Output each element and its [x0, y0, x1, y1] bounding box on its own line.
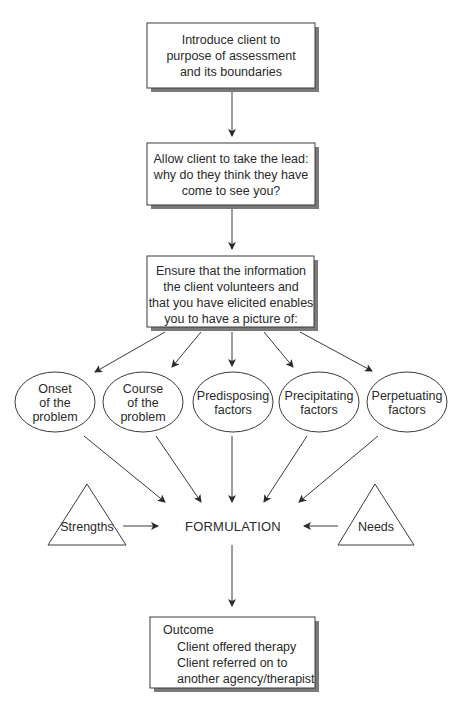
course-line-2: of the	[127, 396, 158, 410]
allow-lead-line-3: come to see you?	[182, 184, 281, 198]
assessment-flowchart: Introduce client to purpose of assessmen…	[0, 0, 465, 708]
arrow-precipitating-to-formulation	[264, 436, 307, 502]
allow-lead-line-2: why do they think they have	[153, 168, 308, 182]
course-line-3: problem	[120, 410, 165, 424]
allow-lead-box: Allow client to take the lead: why do th…	[147, 143, 319, 209]
needs-label: Needs	[358, 520, 394, 534]
introduce-line-1: Introduce client to	[182, 33, 281, 47]
factor-onset: Onset of the problem	[15, 372, 95, 432]
ensure-line-1: Ensure that the information	[156, 264, 306, 278]
arrow-onset-to-formulation	[84, 436, 165, 502]
precipitating-line-2: factors	[300, 403, 338, 417]
arrow-ensure-to-onset	[95, 332, 165, 372]
factor-predisposing: Predisposing factors	[193, 372, 273, 432]
predisposing-line-1: Predisposing	[197, 389, 269, 403]
strengths-label: Strengths	[60, 520, 114, 534]
ensure-line-4: you to have a picture of:	[164, 312, 297, 326]
strengths-triangle: Strengths	[48, 484, 126, 545]
precipitating-line-1: Precipitating	[285, 389, 354, 403]
onset-line-3: problem	[32, 410, 77, 424]
outcome-line-2: Client referred on to	[177, 656, 288, 670]
introduce-line-3: and its boundaries	[180, 65, 282, 79]
introduce-line-2: purpose of assessment	[166, 49, 296, 63]
introduce-client-box: Introduce client to purpose of assessmen…	[147, 23, 319, 92]
factor-course: Course of the problem	[103, 372, 183, 432]
factor-precipitating: Precipitating factors	[279, 372, 359, 432]
arrow-ensure-to-course	[172, 332, 201, 367]
arrow-ensure-to-precipitating	[264, 332, 293, 367]
onset-line-2: of the	[39, 396, 70, 410]
arrow-course-to-formulation	[156, 436, 201, 502]
arrow-perpetuating-to-formulation	[299, 436, 378, 502]
ensure-information-box: Ensure that the information the client v…	[147, 256, 318, 331]
ensure-line-2: the client volunteers and	[163, 280, 299, 294]
formulation-label: FORMULATION	[185, 519, 281, 534]
outcome-box: Outcome Client offered therapy Client re…	[150, 617, 319, 692]
arrow-ensure-to-perpetuating	[300, 332, 372, 371]
course-line-1: Course	[123, 382, 163, 396]
ensure-line-3: that you have elicited enables	[149, 296, 314, 310]
perpetuating-line-1: Perpetuating	[372, 389, 443, 403]
perpetuating-line-2: factors	[388, 403, 426, 417]
onset-line-1: Onset	[38, 382, 72, 396]
allow-lead-line-1: Allow client to take the lead:	[154, 152, 309, 166]
outcome-line-3: another agency/therapist	[177, 672, 315, 686]
outcome-line-1: Client offered therapy	[177, 640, 297, 654]
outcome-title: Outcome	[163, 623, 214, 637]
needs-triangle: Needs	[338, 484, 414, 545]
predisposing-line-2: factors	[214, 403, 252, 417]
factor-perpetuating: Perpetuating factors	[367, 372, 447, 432]
